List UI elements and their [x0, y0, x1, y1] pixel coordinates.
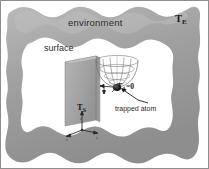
surface-temperature-label: TS: [77, 103, 86, 113]
atom-temperature-value: =0: [126, 82, 134, 91]
axis-z-label: z: [80, 116, 82, 121]
figure-canvas: environment TE surface TS TA=0 trapped a…: [0, 0, 209, 169]
surface-temperature-subscript: S: [83, 107, 86, 113]
environment-label: environment: [68, 18, 122, 28]
axis-x-label: x: [66, 137, 68, 142]
trapped-atom-label: trapped atom: [115, 105, 156, 112]
axis-y-label: y: [96, 135, 98, 140]
environment-temperature-label: TE: [175, 14, 187, 26]
environment-temperature-symbol: T: [175, 13, 182, 24]
environment-temperature-subscript: E: [182, 18, 187, 26]
atom-temperature-label: TA=0: [117, 83, 134, 92]
surface-slab: [65, 56, 100, 126]
axis-origin-dot: [81, 129, 83, 131]
surface-label: surface: [44, 44, 74, 53]
